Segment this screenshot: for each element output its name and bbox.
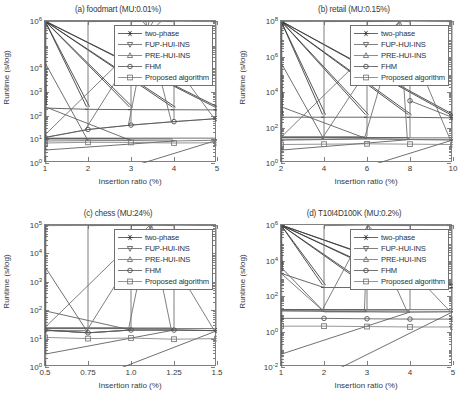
y-tick-label: 101	[30, 134, 42, 145]
legend-item[interactable]: Proposed algorithm	[117, 72, 209, 83]
y-axis-label: Runtime (s/log)	[2, 242, 11, 322]
legend-label: FHM	[143, 266, 161, 275]
legend-label: PRE-HUI-INS	[379, 255, 426, 264]
x-tick-label: 2	[279, 164, 283, 173]
legend-item[interactable]: PRE-HUI-INS	[353, 50, 445, 61]
y-tick-label: 10-2	[264, 362, 278, 373]
legend-label: Proposed algorithm	[143, 277, 209, 286]
y-tick-label: 102	[266, 122, 278, 133]
legend-item[interactable]: FHM	[353, 61, 445, 72]
y-tick-label: 103	[30, 276, 42, 287]
x-tick-label: 2	[322, 368, 326, 377]
plot-area: Runtime (s/log)10-210010210410612345two-…	[280, 224, 452, 366]
legend-label: two-phase	[143, 29, 179, 38]
legend-item[interactable]: Proposed algorithm	[117, 276, 209, 287]
legend-marker-square-icon	[117, 276, 143, 287]
x-tick-label: 0.75	[80, 368, 96, 377]
legend-label: two-phase	[379, 233, 415, 242]
legend-item[interactable]: two-phase	[353, 232, 445, 243]
panel-title: (c) chess (MU:24%)	[0, 209, 236, 218]
x-tick-mark	[453, 21, 454, 25]
x-tick-mark	[217, 21, 218, 25]
y-tick-label: 102	[30, 305, 42, 316]
x-tick-mark	[217, 157, 218, 161]
x-tick-mark	[217, 361, 218, 365]
legend-item[interactable]: PRE-HUI-INS	[353, 254, 445, 265]
x-axis-label: Insertion ratio (%)	[280, 381, 452, 390]
legend-marker-square-icon	[117, 72, 143, 83]
plot-area: Runtime (s/log)1001011021031041050.50.75…	[44, 224, 216, 366]
x-tick-mark	[453, 361, 454, 365]
x-axis-label: Insertion ratio (%)	[280, 177, 452, 186]
y-tick-label: 102	[266, 291, 278, 302]
x-tick-label: 0.5	[39, 368, 50, 377]
y-axis-label: Runtime (s/log)	[238, 38, 247, 118]
panel-d: (d) T10I4D100K (MU:0.2%) Runtime (s/log)…	[236, 204, 472, 408]
legend-marker-triangle-down-icon	[353, 39, 379, 50]
legend-item[interactable]: FUP-HUI-INS	[117, 243, 209, 254]
x-tick-label: 2	[86, 164, 90, 173]
legend-marker-triangle-down-icon	[117, 39, 143, 50]
legend-label: Proposed algorithm	[379, 73, 445, 82]
panel-title: (b) retail (MU:0.15%)	[236, 5, 472, 14]
y-axis-label: Runtime (s/log)	[2, 38, 11, 118]
legend-item[interactable]: FUP-HUI-INS	[353, 39, 445, 50]
panel-title: (a) foodmart (MU:0.01%)	[0, 5, 236, 14]
legend-item[interactable]: two-phase	[117, 232, 209, 243]
panel-title: (d) T10I4D100K (MU:0.2%)	[236, 209, 472, 218]
legend-marker-star-icon	[353, 232, 379, 243]
y-tick-label: 100	[266, 326, 278, 337]
legend-item[interactable]: FHM	[117, 61, 209, 72]
x-tick-label: 3	[365, 368, 369, 377]
x-tick-label: 1	[43, 164, 47, 173]
legend-label: FHM	[379, 62, 397, 71]
legend-marker-star-icon	[117, 232, 143, 243]
legend-item[interactable]: PRE-HUI-INS	[117, 50, 209, 61]
y-tick-label: 105	[30, 220, 42, 231]
legend-marker-circle-icon	[353, 265, 379, 276]
y-tick-label: 101	[30, 333, 42, 344]
legend-item[interactable]: FUP-HUI-INS	[353, 243, 445, 254]
legend-marker-triangle-down-icon	[117, 243, 143, 254]
legend-label: FUP-HUI-INS	[379, 244, 426, 253]
legend-marker-star-icon	[117, 28, 143, 39]
legend-label: FUP-HUI-INS	[379, 40, 426, 49]
legend-item[interactable]: two-phase	[117, 28, 209, 39]
legend-label: FUP-HUI-INS	[143, 244, 190, 253]
legend-label: two-phase	[143, 233, 179, 242]
x-tick-label: 10	[449, 164, 458, 173]
y-tick-label: 106	[266, 51, 278, 62]
legend-marker-square-icon	[353, 72, 379, 83]
legend-marker-circle-icon	[353, 61, 379, 72]
y-axis-label: Runtime (s/log)	[238, 242, 247, 322]
legend: two-phaseFUP-HUI-INSPRE-HUI-INSFHMPropos…	[350, 25, 449, 86]
panel-b: (b) retail (MU:0.15%) Runtime (s/log)100…	[236, 0, 472, 204]
x-tick-label: 1.25	[166, 368, 182, 377]
legend-item[interactable]: two-phase	[353, 28, 445, 39]
legend-marker-triangle-down-icon	[353, 243, 379, 254]
legend-label: two-phase	[379, 29, 415, 38]
x-axis-label: Insertion ratio (%)	[44, 177, 216, 186]
y-tick-label: 108	[266, 16, 278, 27]
legend-marker-triangle-up-icon	[117, 254, 143, 265]
legend-item[interactable]: Proposed algorithm	[353, 276, 445, 287]
y-tick-label: 104	[266, 87, 278, 98]
y-tick-label: 100	[30, 158, 42, 169]
legend: two-phaseFUP-HUI-INSPRE-HUI-INSFHMPropos…	[114, 229, 213, 290]
legend-label: Proposed algorithm	[379, 277, 445, 286]
panel-a: (a) foodmart (MU:0.01%) Runtime (s/log)1…	[0, 0, 236, 204]
legend-item[interactable]: FHM	[353, 265, 445, 276]
legend: two-phaseFUP-HUI-INSPRE-HUI-INSFHMPropos…	[350, 229, 449, 290]
legend-item[interactable]: FHM	[117, 265, 209, 276]
legend-label: PRE-HUI-INS	[143, 255, 190, 264]
x-tick-label: 3	[129, 164, 133, 173]
plot-area: Runtime (s/log)100102104106108246810two-…	[280, 20, 452, 162]
plot-area: Runtime (s/log)10010110210310410612345tw…	[44, 20, 216, 162]
legend-item[interactable]: Proposed algorithm	[353, 72, 445, 83]
y-tick-label: 102	[30, 110, 42, 121]
y-tick-label: 103	[30, 87, 42, 98]
legend-item[interactable]: FUP-HUI-INS	[117, 39, 209, 50]
legend-item[interactable]: PRE-HUI-INS	[117, 254, 209, 265]
x-tick-label: 8	[408, 164, 412, 173]
legend-label: FUP-HUI-INS	[143, 40, 190, 49]
